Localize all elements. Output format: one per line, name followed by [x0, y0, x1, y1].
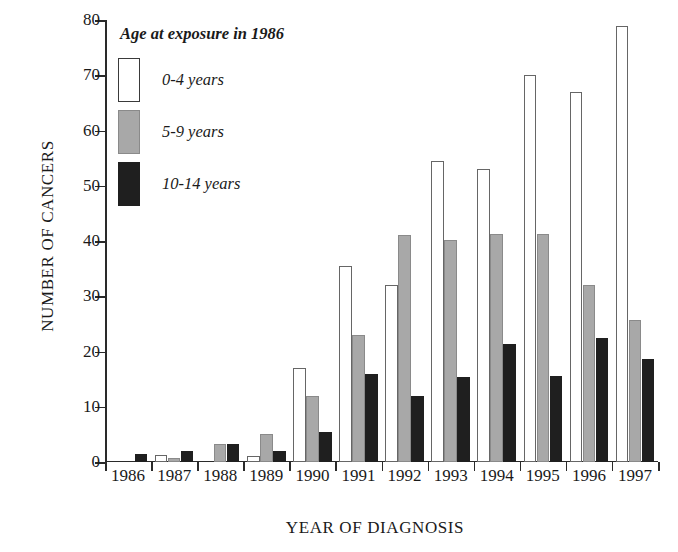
y-tick-label: 80 [83, 10, 100, 30]
bar [596, 338, 609, 462]
legend-item: 5-9 years [118, 106, 348, 158]
x-tick-mark [197, 462, 199, 471]
bar [398, 235, 411, 462]
x-tick-mark [566, 462, 568, 471]
bar [273, 451, 286, 462]
bar-chart: NUMBER OF CANCERS 01020304050607080 1986… [0, 0, 678, 552]
bar [352, 335, 365, 462]
x-tick-mark [474, 462, 476, 471]
bar [629, 320, 642, 462]
bar [260, 434, 273, 462]
x-tick-label: 1991 [341, 466, 375, 486]
x-tick-label: 1995 [526, 466, 560, 486]
legend-title: Age at exposure in 1986 [120, 24, 348, 44]
x-tick-mark [243, 462, 245, 471]
x-tick-label: 1992 [388, 466, 422, 486]
x-tick-mark [428, 462, 430, 471]
bar [490, 234, 503, 462]
x-tick-label: 1996 [572, 466, 606, 486]
legend-label: 5-9 years [162, 122, 224, 142]
bar [524, 75, 537, 462]
x-tick-mark [520, 462, 522, 471]
bar [642, 359, 655, 462]
y-tick-label: 60 [83, 121, 100, 141]
x-tick-mark [105, 462, 107, 471]
y-tick-label: 40 [83, 231, 100, 251]
bar-group [428, 20, 474, 462]
bar [385, 285, 398, 462]
legend-label: 0-4 years [162, 70, 224, 90]
x-tick-label: 1989 [249, 466, 283, 486]
bar [570, 92, 583, 462]
y-axis-title: NUMBER OF CANCERS [38, 106, 58, 366]
y-tick-label: 20 [83, 342, 100, 362]
bar [444, 240, 457, 462]
y-tick-label: 30 [83, 286, 100, 306]
x-tick-mark [382, 462, 384, 471]
bar [227, 444, 240, 462]
legend-item: 0-4 years [118, 54, 348, 106]
x-tick-mark [658, 462, 660, 471]
bar [181, 451, 194, 462]
x-tick-label: 1987 [157, 466, 191, 486]
x-tick-label: 1988 [203, 466, 237, 486]
bar [214, 444, 227, 462]
x-tick-label: 1997 [618, 466, 652, 486]
bar-group [382, 20, 428, 462]
bar [550, 376, 563, 462]
bar [319, 432, 332, 462]
x-tick-mark [335, 462, 337, 471]
legend-label: 10-14 years [162, 174, 240, 194]
bar [503, 344, 516, 462]
x-axis-title: YEAR OF DIAGNOSIS [95, 518, 655, 538]
bar [477, 169, 490, 462]
y-tick-label: 50 [83, 176, 100, 196]
x-tick-mark [612, 462, 614, 471]
legend-swatch [118, 162, 140, 206]
x-tick-mark [151, 462, 153, 471]
bar [537, 234, 550, 462]
bar [155, 455, 168, 462]
x-tick-label: 1993 [434, 466, 468, 486]
bar [411, 396, 424, 462]
bar [616, 26, 629, 462]
bar-group [520, 20, 566, 462]
x-tick-label: 1986 [111, 466, 145, 486]
x-tick-label: 1990 [295, 466, 329, 486]
bar [431, 161, 444, 462]
bar [306, 396, 319, 462]
legend: Age at exposure in 1986 0-4 years5-9 yea… [118, 24, 348, 210]
bar-group [474, 20, 520, 462]
legend-swatch [118, 110, 140, 154]
bar-group [566, 20, 612, 462]
bar [339, 266, 352, 462]
y-tick-label: 10 [83, 397, 100, 417]
y-tick-label: 0 [92, 452, 101, 472]
legend-swatch [118, 58, 140, 102]
bar [583, 285, 596, 462]
bar [135, 454, 148, 462]
bar [457, 377, 470, 462]
x-tick-mark [289, 462, 291, 471]
bar [247, 456, 260, 462]
bar-group [612, 20, 658, 462]
y-tick-label: 70 [83, 65, 100, 85]
legend-item: 10-14 years [118, 158, 348, 210]
x-tick-label: 1994 [480, 466, 514, 486]
bar [365, 374, 378, 462]
bar [168, 458, 181, 462]
bar [293, 368, 306, 462]
